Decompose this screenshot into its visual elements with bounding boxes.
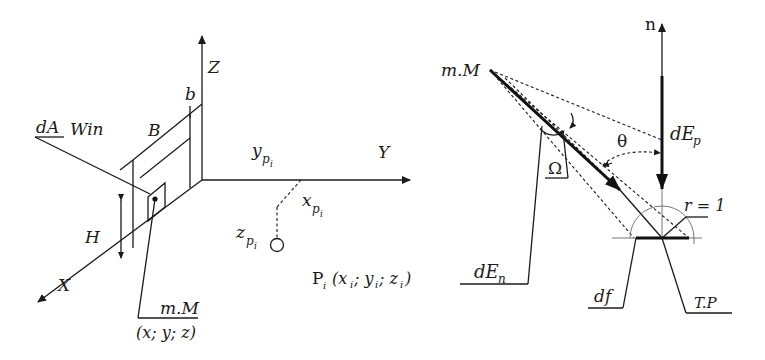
svg-text:y: y xyxy=(251,140,262,160)
x-axis-label: X xyxy=(56,275,71,295)
svg-text:i: i xyxy=(375,279,378,290)
Pi-coords-label: P i (x i ; y i ; z i ) xyxy=(312,268,411,291)
svg-text:p: p xyxy=(312,202,320,216)
dEp-label: dE p xyxy=(670,123,701,148)
svg-text:p: p xyxy=(693,134,701,148)
svg-text:i: i xyxy=(400,279,403,290)
dEn-label: dE n xyxy=(474,261,506,286)
svg-text:x: x xyxy=(302,190,312,210)
svg-text:dE: dE xyxy=(474,261,499,282)
dA-label: dA xyxy=(36,117,59,137)
df-label: df xyxy=(594,286,614,306)
svg-text:): ) xyxy=(404,269,411,288)
theta-label: θ xyxy=(617,131,627,151)
df-leader xyxy=(623,238,636,308)
omega-label: Ω xyxy=(548,158,562,178)
cone-line-top xyxy=(490,70,662,140)
cone-line-left xyxy=(490,70,634,238)
svg-text:p: p xyxy=(262,152,270,166)
point-Pi xyxy=(271,239,284,252)
B-label: B xyxy=(147,120,161,140)
svg-text:i: i xyxy=(320,209,323,219)
window-frame xyxy=(120,104,202,248)
svg-text:; z: ; z xyxy=(378,269,398,288)
b-label: b xyxy=(185,84,196,104)
svg-text:z: z xyxy=(235,222,246,242)
svg-text:i: i xyxy=(350,279,353,290)
svg-text:(x: (x xyxy=(332,269,347,288)
svg-text:i: i xyxy=(323,280,326,291)
illumination-geometry-diagram: Z b B dA Win H X Y m.M (x; y; z) y p i x… xyxy=(0,0,765,360)
mM-leader xyxy=(138,199,155,318)
mM-coords-label: (x; y; z) xyxy=(136,323,196,342)
svg-text:; y: ; y xyxy=(353,269,374,288)
xp-projection xyxy=(277,180,301,207)
svg-text:dE: dE xyxy=(670,123,695,144)
win-label: Win xyxy=(70,119,104,139)
TP-label: T.P xyxy=(694,294,718,312)
H-label: H xyxy=(84,227,101,247)
svg-text:i: i xyxy=(270,159,273,169)
left-diagram: Z b B dA Win H X Y m.M (x; y; z) y p i x… xyxy=(35,36,411,342)
r-label: r = 1 xyxy=(684,196,725,215)
svg-text:i: i xyxy=(254,241,257,251)
svg-text:p: p xyxy=(246,234,254,248)
z-axis-label: Z xyxy=(207,57,221,77)
zp-label: z p i xyxy=(235,222,257,251)
svg-text:n: n xyxy=(498,272,506,286)
mM-label-right: m.M xyxy=(441,60,481,80)
mM-label: m.M xyxy=(160,298,200,318)
cone-line-right xyxy=(490,70,689,238)
yp-label: y p i xyxy=(251,140,273,169)
xp-label: x p i xyxy=(302,190,323,219)
right-diagram: n m.M dE p θ Ω r = 1 dE n df T.P xyxy=(441,14,732,313)
y-axis-label: Y xyxy=(378,142,391,162)
n-label: n xyxy=(645,14,656,34)
dEn-leader xyxy=(528,126,542,284)
svg-text:P: P xyxy=(312,268,323,288)
TP-leader xyxy=(662,238,686,313)
